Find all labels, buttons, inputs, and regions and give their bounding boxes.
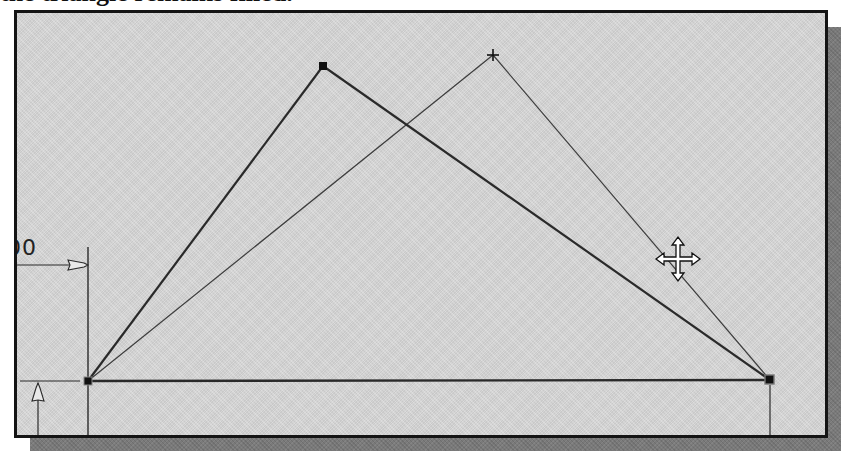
vertex-apex[interactable] <box>319 62 327 70</box>
edge-base[interactable] <box>88 380 770 381</box>
dragged-triangle[interactable] <box>88 49 770 381</box>
figure-stage: the triangle remains filled. <box>0 0 850 451</box>
dimension-horizontal[interactable] <box>17 247 88 435</box>
dimension-value-label[interactable]: 00 <box>14 235 37 260</box>
dragged-edge-left[interactable] <box>88 55 493 381</box>
dimension-vertical[interactable] <box>20 381 80 435</box>
edge-right[interactable] <box>323 66 770 380</box>
arrow-right-icon <box>68 260 88 270</box>
edge-left[interactable] <box>88 66 323 381</box>
vertex-bottom-right[interactable] <box>765 375 774 384</box>
dragged-edge-right[interactable] <box>493 55 770 380</box>
sketch-viewport[interactable]: 00 <box>14 10 828 438</box>
sketch-canvas[interactable] <box>17 13 825 435</box>
move-cursor-icon <box>656 237 700 281</box>
figure-caption: the triangle remains filled. <box>0 0 293 8</box>
arrow-up-icon <box>32 383 44 401</box>
vertex-bottom-left[interactable] <box>84 377 92 385</box>
original-triangle[interactable] <box>88 66 770 381</box>
